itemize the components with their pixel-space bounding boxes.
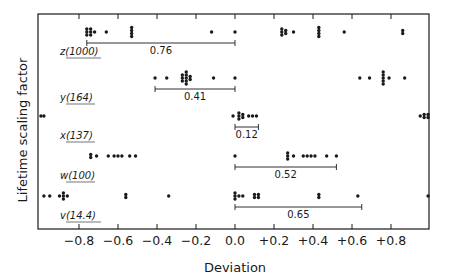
series-label: x(137) [59, 130, 93, 141]
data-point [280, 30, 283, 33]
data-point [95, 154, 98, 157]
data-point [130, 35, 133, 38]
series-row-z: 0.76z(1000) [59, 26, 404, 58]
data-point [237, 194, 240, 197]
data-point [280, 27, 283, 30]
data-point [241, 113, 244, 116]
data-point [107, 154, 110, 157]
series-row-x: 0.12x(137) [39, 111, 429, 142]
data-point [426, 116, 429, 119]
data-point [302, 154, 305, 157]
data-point [85, 27, 88, 30]
x-tick-label: +0.6 [337, 233, 367, 248]
data-point [130, 29, 133, 32]
data-point [401, 32, 404, 35]
data-point [233, 76, 236, 79]
data-point [116, 154, 119, 157]
data-point [286, 157, 289, 160]
data-point [185, 70, 188, 73]
data-point [124, 196, 127, 199]
data-point [401, 29, 404, 32]
data-point [185, 82, 188, 85]
x-tick-label: −0.6 [103, 233, 133, 248]
data-point [317, 196, 320, 199]
x-tick-label: −0.2 [181, 233, 211, 248]
data-point [210, 30, 213, 33]
data-point [382, 82, 385, 85]
data-point [292, 154, 295, 157]
data-point [188, 75, 191, 78]
data-point [93, 30, 96, 33]
x-tick-label: +0.4 [298, 233, 328, 248]
data-point [130, 26, 133, 29]
data-point [257, 196, 260, 199]
data-point [255, 114, 258, 117]
data-point [233, 154, 236, 157]
series-label: w(100) [60, 170, 95, 181]
series-row-y: 0.41y(164) [59, 70, 406, 104]
data-point [181, 76, 184, 79]
data-point [181, 73, 184, 76]
chart-canvas: −0.8−0.6−0.4−0.20.0+0.2+0.4+0.6+0.8 0.76… [0, 0, 449, 280]
lifetime-deviation-chart: −0.8−0.6−0.4−0.20.0+0.2+0.4+0.6+0.8 0.76… [0, 0, 449, 280]
series-label: v(14.4) [60, 210, 96, 221]
range-value-label: 0.52 [275, 169, 297, 180]
data-point [382, 79, 385, 82]
data-point [286, 154, 289, 157]
data-point [237, 111, 240, 114]
data-point [317, 29, 320, 32]
data-point [280, 33, 283, 36]
data-point [42, 194, 45, 197]
data-point [292, 30, 295, 33]
data-point [241, 194, 244, 197]
data-point [42, 114, 45, 117]
data-point [284, 29, 287, 32]
data-point [58, 194, 61, 197]
data-point [233, 197, 236, 200]
data-point [233, 194, 236, 197]
data-point [317, 193, 320, 196]
data-point [356, 194, 359, 197]
x-tick-label: +0.8 [376, 233, 406, 248]
data-point [39, 114, 42, 117]
data-point [284, 32, 287, 35]
data-point [403, 76, 406, 79]
range-value-label: 0.12 [236, 129, 258, 140]
data-point [426, 194, 429, 197]
data-point [368, 76, 371, 79]
data-point [237, 114, 240, 117]
data-point [343, 30, 346, 33]
data-point [89, 27, 92, 30]
data-point [85, 33, 88, 36]
x-tick-label: −0.8 [64, 233, 94, 248]
x-axis-title: Deviation [204, 260, 266, 275]
data-point [165, 76, 168, 79]
x-tick-label: −0.4 [142, 233, 172, 248]
data-point [251, 114, 254, 117]
data-point [313, 154, 316, 157]
data-point [112, 154, 115, 157]
data-point [422, 116, 425, 119]
data-point [387, 76, 390, 79]
x-tick-label: 0.0 [225, 233, 245, 248]
data-point [317, 26, 320, 29]
data-point [253, 193, 256, 196]
data-point [185, 73, 188, 76]
range-value-label: 0.41 [184, 91, 206, 102]
data-point [134, 154, 137, 157]
series-label: y(164) [59, 92, 93, 103]
data-point [62, 194, 65, 197]
data-point [66, 194, 69, 197]
data-point [85, 30, 88, 33]
data-point [419, 114, 422, 117]
data-point [89, 156, 92, 159]
data-point [89, 33, 92, 36]
data-point [124, 193, 127, 196]
data-point [130, 32, 133, 35]
data-point [89, 153, 92, 156]
data-point [233, 191, 236, 194]
data-point [253, 196, 256, 199]
data-point [422, 113, 425, 116]
data-point [247, 114, 250, 117]
data-point [382, 70, 385, 73]
